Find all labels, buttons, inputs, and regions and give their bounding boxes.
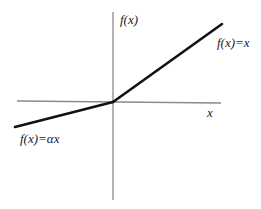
positive-branch-label: f(x)=x <box>217 36 250 49</box>
leaky-relu-diagram: f(x) x f(x)=x f(x)=αx <box>0 0 261 209</box>
x-axis-line <box>17 101 221 103</box>
negative-branch-line <box>15 102 113 127</box>
negative-branch-label: f(x)=αx <box>20 132 59 145</box>
x-axis-label: x <box>207 106 213 119</box>
plot-area <box>0 0 261 209</box>
y-axis-label: f(x) <box>120 13 138 26</box>
positive-branch-line <box>113 24 222 102</box>
